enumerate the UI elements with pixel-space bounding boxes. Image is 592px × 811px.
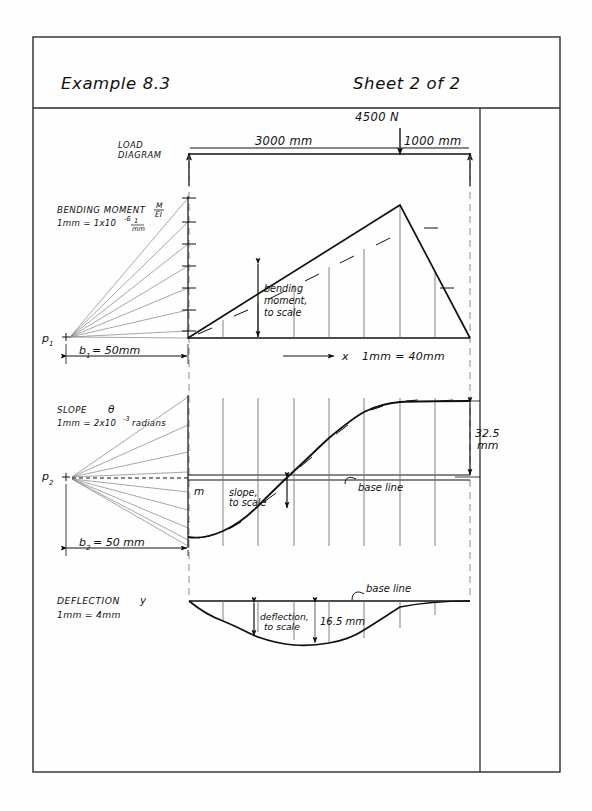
bending-moment-symbol-numerator: M bbox=[156, 201, 163, 210]
drawing-sheet: Example 8.3 Sheet 2 of 2 LOAD DIAGRAM 45… bbox=[0, 0, 592, 811]
slope-label: SLOPE bbox=[57, 405, 87, 415]
slope-ordinates bbox=[223, 398, 435, 546]
bending-moment-scale-exponent: -6 bbox=[124, 215, 131, 223]
slope-base-line-label: base line bbox=[358, 482, 403, 493]
bending-moment-scale-prefix: 1mm = 1x10 bbox=[57, 218, 117, 228]
b1-symbol: b bbox=[79, 344, 86, 357]
slope-base-line-leader bbox=[345, 477, 356, 484]
page-title-right: Sheet 2 of 2 bbox=[353, 74, 461, 93]
deflection-base-line-leader bbox=[352, 592, 364, 600]
load-diagram-label-line1: LOAD bbox=[118, 140, 143, 150]
slope-m-label: m bbox=[194, 485, 204, 497]
slope-dimension-value-line2: mm bbox=[477, 439, 498, 452]
slope-dimension-32-5: 32.5 mm bbox=[455, 401, 500, 477]
pole-p2-subscript: 2 bbox=[49, 479, 54, 487]
load-diagram-label-line2: DIAGRAM bbox=[118, 150, 161, 160]
bm-curve-ticks bbox=[198, 228, 454, 334]
deflection-group: DEFLECTION y 1mm = 4mm deflection, to sc… bbox=[57, 583, 470, 645]
bm-curve-note-line3: to scale bbox=[264, 307, 301, 318]
slope-scale-prefix: 1mm = 2x10 bbox=[57, 418, 117, 428]
deflection-dimension-value: 16.5 mm bbox=[320, 616, 365, 627]
engineering-drawing-canvas: Example 8.3 Sheet 2 of 2 LOAD DIAGRAM 45… bbox=[0, 0, 592, 811]
b1-value: = 50mm bbox=[92, 344, 140, 357]
bending-moment-symbol-denominator: EI bbox=[155, 210, 163, 219]
b2-value: = 50 mm bbox=[93, 536, 145, 549]
dim-left-label: 3000 mm bbox=[255, 134, 312, 148]
bm-ordinates bbox=[223, 205, 435, 338]
b1-subscript: 1 bbox=[86, 352, 90, 360]
x-axis-scale: 1mm = 40mm bbox=[362, 350, 445, 363]
bending-moment-group: BENDING MOMENT M EI 1mm = 1x10 -6 1 mm p… bbox=[41, 196, 470, 364]
pole-p2-label: p bbox=[41, 470, 49, 483]
deflection-symbol-y: y bbox=[139, 594, 147, 606]
b2-symbol: b bbox=[79, 536, 86, 549]
deflection-base-line-label: base line bbox=[366, 583, 411, 594]
dim-right-label: 1000 mm bbox=[404, 134, 461, 148]
b2-subscript: 2 bbox=[86, 544, 91, 552]
bending-moment-scale-frac-bottom: mm bbox=[132, 225, 145, 233]
slope-scale-suffix: radians bbox=[132, 418, 166, 428]
bm-curve-note-line1: bending bbox=[264, 283, 303, 294]
slope-symbol-theta: θ bbox=[108, 403, 115, 415]
deflection-scale: 1mm = 4mm bbox=[57, 609, 121, 620]
projection-lines bbox=[189, 156, 470, 600]
bending-moment-scale-frac-top: 1 bbox=[134, 217, 138, 225]
deflection-label: DEFLECTION bbox=[57, 595, 120, 606]
pole-p1-label: p bbox=[41, 332, 49, 345]
bm-curve-note-line2: moment, bbox=[264, 295, 307, 306]
slope-group: SLOPE θ 1mm = 2x10 -3 radians p 2 bbox=[41, 395, 500, 556]
pole-p1-subscript: 1 bbox=[49, 340, 53, 348]
slope-curve-note-line2: to scale bbox=[229, 497, 266, 508]
page-title-left: Example 8.3 bbox=[61, 74, 171, 93]
x-axis-symbol: x bbox=[341, 350, 349, 363]
slope-curve-ticks bbox=[198, 400, 453, 538]
load-diagram-group: LOAD DIAGRAM 4500 N 3000 mm 1000 mm bbox=[118, 110, 470, 186]
slope-scale-exponent: -3 bbox=[123, 415, 130, 423]
bending-moment-label: BENDING MOMENT bbox=[57, 205, 146, 215]
b1-dimension: b 1 = 50mm bbox=[66, 344, 188, 364]
point-load-value: 4500 N bbox=[355, 110, 399, 124]
deflection-curve-note-line2: to scale bbox=[264, 621, 300, 632]
